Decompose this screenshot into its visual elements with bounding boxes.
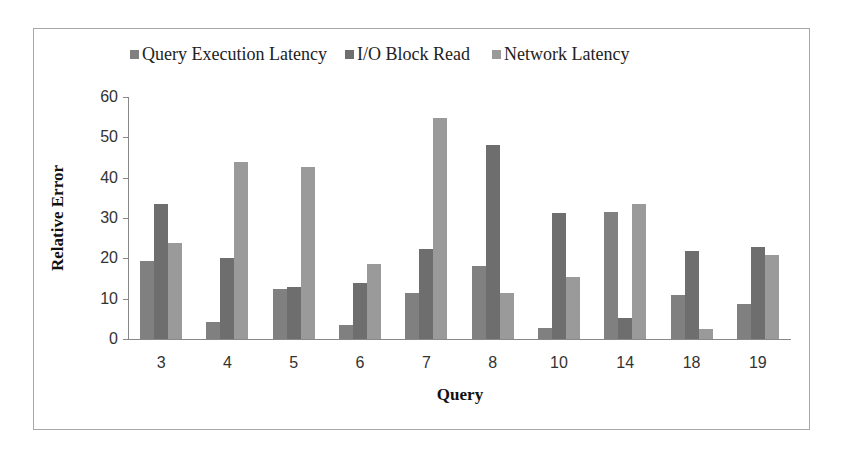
- y-tick-mark: [123, 218, 128, 219]
- y-axis-title: Relative Error: [48, 165, 68, 271]
- bar-i-o-block-read-q19: [751, 247, 765, 339]
- y-tick-mark: [123, 137, 128, 138]
- y-tick-label: 10: [78, 290, 118, 308]
- y-tick-label: 40: [78, 169, 118, 187]
- bar-query-execution-latency-q14: [604, 212, 618, 339]
- bar-query-execution-latency-q4: [206, 322, 220, 339]
- x-tick-label: 14: [605, 354, 645, 372]
- bar-i-o-block-read-q10: [552, 213, 566, 339]
- y-tick-mark: [123, 299, 128, 300]
- bar-query-execution-latency-q7: [405, 293, 419, 339]
- legend-swatch-icon: [345, 50, 354, 59]
- bar-network-latency-q5: [301, 167, 315, 339]
- bar-query-execution-latency-q19: [737, 304, 751, 339]
- bar-i-o-block-read-q3: [154, 204, 168, 339]
- x-tick-label: 4: [207, 354, 247, 372]
- bar-network-latency-q10: [566, 277, 580, 339]
- bar-i-o-block-read-q8: [486, 145, 500, 339]
- bar-i-o-block-read-q4: [220, 258, 234, 339]
- bar-network-latency-q18: [699, 329, 713, 339]
- legend-item-network-latency: Network Latency: [492, 44, 629, 65]
- bar-network-latency-q8: [500, 293, 514, 339]
- x-tick-label: 8: [473, 354, 513, 372]
- bar-i-o-block-read-q5: [287, 287, 301, 339]
- x-tick-label: 6: [340, 354, 380, 372]
- legend-swatch-icon: [130, 50, 139, 59]
- bar-query-execution-latency-q6: [339, 325, 353, 339]
- legend-item-io-block-read: I/O Block Read: [345, 44, 470, 65]
- bar-query-execution-latency-q5: [273, 289, 287, 339]
- y-tick-label: 50: [78, 128, 118, 146]
- bar-query-execution-latency-q8: [472, 266, 486, 339]
- bar-network-latency-q3: [168, 243, 182, 339]
- y-tick-mark: [123, 339, 128, 340]
- x-axis-title: Query: [437, 385, 483, 405]
- bar-i-o-block-read-q18: [685, 251, 699, 339]
- legend-item-query-execution-latency: Query Execution Latency: [130, 44, 327, 65]
- chart-legend: Query Execution Latency I/O Block Read N…: [0, 44, 843, 68]
- x-tick-label: 3: [141, 354, 181, 372]
- bar-i-o-block-read-q14: [618, 318, 632, 339]
- bar-network-latency-q6: [367, 264, 381, 339]
- bar-query-execution-latency-q3: [140, 261, 154, 339]
- y-tick-label: 30: [78, 209, 118, 227]
- y-tick-mark: [123, 97, 128, 98]
- legend-label: Query Execution Latency: [142, 44, 327, 65]
- bar-network-latency-q7: [433, 118, 447, 339]
- x-tick-label: 19: [738, 354, 778, 372]
- x-tick-label: 5: [274, 354, 314, 372]
- legend-label: Network Latency: [504, 44, 629, 65]
- bar-network-latency-q19: [765, 255, 779, 339]
- bar-network-latency-q14: [632, 204, 646, 339]
- bar-query-execution-latency-q10: [538, 328, 552, 339]
- x-tick-label: 18: [672, 354, 712, 372]
- y-tick-label: 20: [78, 249, 118, 267]
- bar-query-execution-latency-q18: [671, 295, 685, 339]
- x-tick-label: 10: [539, 354, 579, 372]
- bar-i-o-block-read-q6: [353, 283, 367, 339]
- y-tick-label: 0: [78, 330, 118, 348]
- y-tick-mark: [123, 258, 128, 259]
- legend-swatch-icon: [492, 50, 501, 59]
- x-axis-line: [128, 339, 791, 340]
- bar-network-latency-q4: [234, 162, 248, 339]
- y-axis-line: [128, 97, 129, 339]
- legend-label: I/O Block Read: [357, 44, 470, 65]
- bar-i-o-block-read-q7: [419, 249, 433, 339]
- y-tick-label: 60: [78, 88, 118, 106]
- x-tick-label: 7: [406, 354, 446, 372]
- y-tick-mark: [123, 178, 128, 179]
